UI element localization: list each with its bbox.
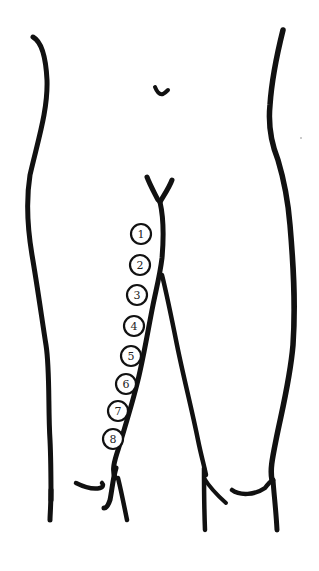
crotch-right-stroke [160, 180, 172, 202]
marker-6: 6 [116, 374, 136, 394]
left-knee-inner-b [118, 478, 127, 520]
right-outer-lower-line [273, 480, 277, 530]
marker-5: 5 [121, 346, 141, 366]
marker-8: 8 [103, 429, 123, 449]
navel-mark [155, 87, 168, 94]
marker-2-label: 2 [137, 259, 144, 272]
marker-4: 4 [124, 316, 144, 336]
marker-3: 3 [127, 285, 147, 305]
left-outer-contour [28, 37, 51, 500]
left-outer-lower-line [50, 490, 51, 520]
paper-speck [300, 137, 302, 139]
right-inner-thigh-line [162, 275, 206, 475]
marker-3-label: 3 [134, 289, 141, 302]
diagram-canvas: 1 2 3 4 5 6 7 8 [0, 0, 319, 571]
left-knee-curve [76, 483, 103, 489]
body-outline-drawing: 1 2 3 4 5 6 7 8 [0, 0, 319, 571]
marker-1: 1 [131, 224, 151, 244]
marker-5-label: 5 [128, 350, 135, 363]
right-knee-curve [232, 480, 273, 494]
marker-4-label: 4 [131, 320, 138, 333]
left-knee-inner-a [104, 468, 116, 508]
marker-1-label: 1 [138, 228, 145, 241]
marker-8-label: 8 [110, 433, 117, 446]
marker-2: 2 [130, 255, 150, 275]
right-outer-contour [269, 30, 294, 480]
marker-7: 7 [108, 401, 128, 421]
marker-7-label: 7 [115, 405, 122, 418]
crotch-left-stroke [147, 177, 158, 200]
marker-6-label: 6 [123, 378, 130, 391]
right-knee-inner-b [204, 478, 226, 503]
